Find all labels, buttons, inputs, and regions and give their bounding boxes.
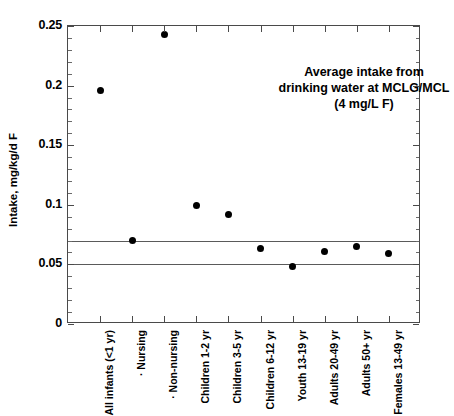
x-tick-top (357, 26, 358, 32)
x-tick-bottom (196, 316, 197, 322)
x-tick-label: Adults 50+ yr (360, 330, 372, 396)
y-tick-minor-right (416, 288, 420, 289)
annotation-line: (4 mg/L F) (264, 96, 454, 112)
y-tick-label: 0 (55, 316, 62, 330)
y-tick-minor (68, 252, 72, 253)
x-tick-label: Adults 20-49 yr (328, 330, 340, 405)
y-tick-major-right (413, 145, 419, 146)
y-tick-minor-right (416, 121, 420, 122)
y-tick-minor (68, 133, 72, 134)
x-tick-bottom (357, 316, 358, 322)
x-tick-bottom (325, 316, 326, 322)
y-tick-minor (68, 193, 72, 194)
y-tick-minor (68, 121, 72, 122)
x-tick-bottom (100, 316, 101, 322)
plot-area: Average intake fromdrinking water at MCL… (67, 25, 420, 323)
mclg-mcl-annotation: Average intake fromdrinking water at MCL… (264, 64, 454, 112)
y-tick-major (68, 205, 74, 206)
y-tick-minor-right (416, 300, 420, 301)
y-tick-minor-right (416, 276, 420, 277)
y-tick-major (68, 324, 74, 325)
x-tick-label: · Nursing (135, 330, 147, 376)
y-tick-minor-right (416, 181, 420, 182)
x-tick-bottom (164, 316, 165, 322)
y-tick-minor-right (416, 50, 420, 51)
y-tick-minor-right (416, 252, 420, 253)
y-tick-minor-right (416, 193, 420, 194)
y-tick-label: 0.1 (45, 197, 62, 211)
y-tick-label: 0.2 (45, 78, 62, 92)
y-tick-major-right (413, 324, 419, 325)
y-tick-minor (68, 241, 72, 242)
x-tick-label: All infants (<1 yr) (103, 330, 115, 415)
y-tick-minor (68, 62, 72, 63)
data-point (193, 202, 200, 209)
data-point (97, 87, 104, 94)
x-tick-label: Children 1-2 yr (199, 330, 211, 404)
x-tick-top (261, 26, 262, 32)
y-tick-minor (68, 300, 72, 301)
x-tick-label: Females 13-49 yr (392, 330, 404, 415)
x-axis-tick-labels: All infants (<1 yr)· Nursing· Non-nursin… (0, 330, 439, 416)
lower-reference-line (68, 264, 419, 265)
y-tick-major (68, 86, 74, 87)
x-tick-top (164, 26, 165, 32)
y-tick-minor-right (416, 217, 420, 218)
x-tick-label: · Non-nursing (167, 330, 179, 399)
upper-reference-line (68, 241, 419, 242)
y-tick-minor-right (416, 38, 420, 39)
x-tick-bottom (389, 316, 390, 322)
x-tick-top (196, 26, 197, 32)
y-tick-minor (68, 276, 72, 277)
x-tick-top (293, 26, 294, 32)
data-point (129, 237, 136, 244)
data-point (385, 250, 392, 257)
y-tick-minor (68, 288, 72, 289)
y-tick-major-right (413, 264, 419, 265)
data-point (257, 245, 264, 252)
annotation-line: Average intake from (264, 64, 454, 80)
y-tick-minor (68, 38, 72, 39)
data-point (289, 263, 296, 270)
x-tick-top (389, 26, 390, 32)
y-axis-tick-labels: 00.050.10.150.20.25 (0, 25, 62, 323)
x-tick-top (228, 26, 229, 32)
y-tick-minor (68, 74, 72, 75)
x-tick-bottom (261, 316, 262, 322)
y-tick-minor-right (416, 312, 420, 313)
y-tick-major (68, 26, 74, 27)
y-tick-minor (68, 217, 72, 218)
x-tick-top (132, 26, 133, 32)
y-tick-minor-right (416, 62, 420, 63)
x-tick-label: Children 3-5 yr (231, 330, 243, 404)
x-tick-bottom (293, 316, 294, 322)
x-tick-label: Children 6-12 yr (264, 330, 276, 409)
y-tick-minor (68, 312, 72, 313)
data-point (321, 248, 328, 255)
y-tick-minor (68, 229, 72, 230)
y-tick-minor (68, 109, 72, 110)
y-tick-minor-right (416, 157, 420, 158)
x-tick-top (325, 26, 326, 32)
y-tick-major (68, 145, 74, 146)
y-tick-minor (68, 169, 72, 170)
y-tick-minor (68, 181, 72, 182)
x-tick-bottom (132, 316, 133, 322)
y-tick-major (68, 264, 74, 265)
y-tick-major-right (413, 205, 419, 206)
data-point (353, 243, 360, 250)
y-tick-minor (68, 157, 72, 158)
y-tick-label: 0.15 (38, 137, 62, 151)
y-tick-label: 0.05 (38, 256, 62, 270)
y-tick-minor (68, 98, 72, 99)
y-tick-major-right (413, 26, 419, 27)
y-tick-minor-right (416, 169, 420, 170)
data-point (225, 211, 232, 218)
y-tick-minor (68, 50, 72, 51)
y-tick-label: 0.25 (38, 18, 62, 32)
y-tick-minor-right (416, 133, 420, 134)
y-tick-minor-right (416, 229, 420, 230)
annotation-line: drinking water at MCLG/MCL (264, 80, 454, 96)
x-tick-bottom (228, 316, 229, 322)
